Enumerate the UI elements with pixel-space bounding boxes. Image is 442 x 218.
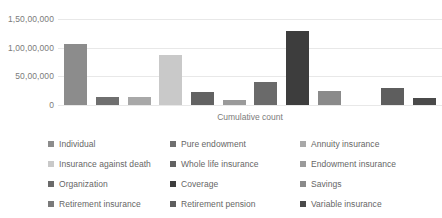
y-axis-tick-label: 1,50,00,000 [8,14,54,24]
legend-item[interactable]: Organization [48,179,170,189]
bar-slot [92,0,124,105]
legend-item-label: Organization [59,179,108,189]
x-axis-label: Cumulative count [58,112,442,126]
legend-swatch-icon [170,141,176,147]
legend-item-label: Savings [311,179,342,189]
legend-swatch-icon [300,181,306,187]
gridline [58,105,442,106]
legend-item[interactable]: Savings [300,179,442,189]
gridlines-and-bars [58,0,442,112]
legend-swatch-icon [170,181,176,187]
legend-item[interactable]: Pure endowment [170,139,300,149]
legend-swatch-icon [48,161,54,167]
chart-legend: IndividualPure endowmentAnnuity insuranc… [48,134,442,214]
legend-item-label: Pure endowment [181,139,246,149]
bar-slot [123,0,155,105]
bar-slot [408,0,440,105]
y-axis-tick-label: 50,00,000 [15,71,54,81]
legend-swatch-icon [300,141,306,147]
bar [318,91,341,105]
legend-item[interactable]: Coverage [170,179,300,189]
legend-item-label: Individual [59,139,95,149]
bar [159,55,182,105]
legend-item[interactable]: Retirement pension [170,199,300,209]
legend-item-label: Variable insurance [311,199,382,209]
legend-item[interactable]: Insurance against death [48,159,170,169]
bar [254,82,277,106]
bar-slot [313,0,345,105]
legend-item[interactable]: Variable insurance [300,199,442,209]
legend-item-label: Whole life insurance [181,159,259,169]
y-axis: 1,50,00,0001,00,00,00050,00,0000 [0,0,58,112]
legend-swatch-icon [300,161,306,167]
bar-slot [218,0,250,105]
legend-item[interactable]: Endowment insurance [300,159,442,169]
legend-swatch-icon [300,201,306,207]
bar-slot [377,0,409,105]
legend-swatch-icon [48,181,54,187]
legend-swatch-icon [48,141,54,147]
bar [413,98,436,105]
bar [96,97,119,105]
legend-item-label: Retirement pension [181,199,256,209]
bar-slot [155,0,187,105]
legend-item-label: Coverage [181,179,218,189]
legend-swatch-icon [170,201,176,207]
plot-area: 1,50,00,0001,00,00,00050,00,0000 Cumulat… [0,0,442,112]
bar [64,44,87,105]
bar [191,92,214,105]
bar [286,31,309,105]
bar-slot [60,0,92,105]
bar-series [58,0,442,105]
bar [381,88,404,105]
legend-item-label: Annuity insurance [311,139,379,149]
legend-item[interactable]: Annuity insurance [300,139,442,149]
y-axis-tick-label: 0 [49,100,54,110]
legend-swatch-icon [48,201,54,207]
bar [128,97,151,105]
bar-slot [250,0,282,105]
bar [223,100,246,105]
legend-item-label: Endowment insurance [311,159,396,169]
bar-slot [282,0,314,105]
legend-item[interactable]: Retirement insurance [48,199,170,209]
bar-chart: 1,50,00,0001,00,00,00050,00,0000 Cumulat… [0,0,442,218]
legend-item-label: Insurance against death [59,159,151,169]
legend-item-label: Retirement insurance [59,199,141,209]
y-axis-tick-label: 1,00,00,000 [8,43,54,53]
legend-swatch-icon [170,161,176,167]
bar-slot [187,0,219,105]
legend-item[interactable]: Individual [48,139,170,149]
bar-slot [345,0,377,105]
legend-item[interactable]: Whole life insurance [170,159,300,169]
